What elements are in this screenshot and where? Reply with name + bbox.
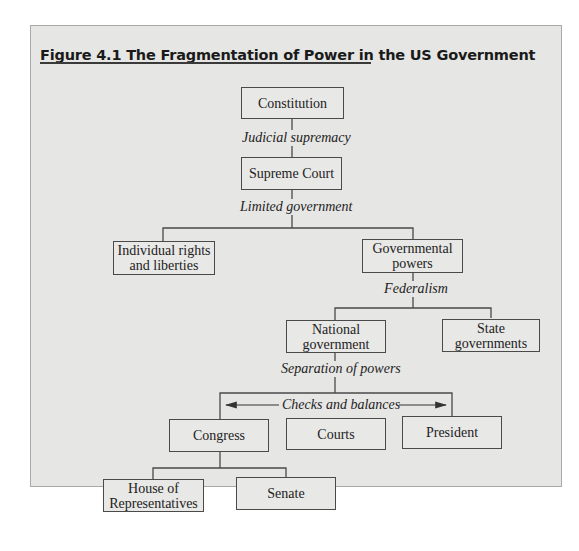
node-individual-rights: Individual rightsand liberties <box>113 241 215 275</box>
connector-lines <box>0 0 579 551</box>
node-national-government-line2: government <box>303 337 370 352</box>
node-house-of-representatives: House ofRepresentatives <box>103 479 204 512</box>
edge-label-limited-government: Limited government <box>237 199 355 215</box>
node-president: President <box>402 416 502 449</box>
node-senate-label: Senate <box>267 486 304 501</box>
node-state-governments-line1: State <box>477 321 505 336</box>
edge-label-federalism: Federalism <box>380 281 452 297</box>
node-supreme-court-label: Supreme Court <box>249 166 334 181</box>
node-governmental-powers: Governmentalpowers <box>362 239 463 273</box>
node-constitution-label: Constitution <box>258 96 327 111</box>
node-governmental-powers-line1: Governmental <box>372 241 452 256</box>
node-house-line1: House of <box>128 481 179 496</box>
node-national-government: Nationalgovernment <box>286 320 386 353</box>
node-supreme-court: Supreme Court <box>241 157 342 190</box>
node-congress-label: Congress <box>193 428 245 443</box>
node-courts-label: Courts <box>317 427 354 442</box>
edge-label-checks-and-balances: Checks and balances <box>279 397 399 413</box>
node-governmental-powers-line2: powers <box>392 256 432 271</box>
node-state-governments-line2: governments <box>455 336 527 351</box>
node-state-governments: Stategovernments <box>442 319 540 352</box>
node-individual-rights-line2: and liberties <box>130 258 199 273</box>
node-house-line2: Representatives <box>109 496 198 511</box>
node-individual-rights-line1: Individual rights <box>118 243 211 258</box>
node-courts: Courts <box>286 418 386 450</box>
node-president-label: President <box>426 425 478 440</box>
node-constitution: Constitution <box>241 87 344 119</box>
node-senate: Senate <box>236 477 336 510</box>
edge-label-judicial-supremacy: Judicial supremacy <box>239 130 351 146</box>
node-national-government-line1: National <box>312 322 360 337</box>
node-congress: Congress <box>169 419 269 452</box>
edge-label-separation-of-powers: Separation of powers <box>278 361 398 377</box>
